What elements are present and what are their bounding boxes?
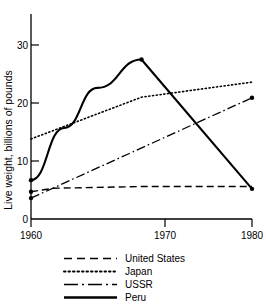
- y-tick-label-0: 0: [22, 214, 28, 225]
- legend-item-united-states: United States: [0, 252, 266, 265]
- x-tick-label-1980: 1980: [241, 230, 264, 241]
- legend-label-peru: Peru: [125, 291, 146, 304]
- series-group: [31, 60, 252, 199]
- legend-swatch-solid: [62, 291, 119, 304]
- data-point-marker: [250, 187, 254, 191]
- legend-swatch-dash-dot: [62, 278, 119, 291]
- series-line-japan: [31, 82, 252, 139]
- data-point-marker: [250, 96, 254, 100]
- data-point-marker: [139, 57, 143, 61]
- series-line-united-states: [31, 187, 252, 192]
- legend-container: United States Japan USSR Peru: [0, 252, 266, 304]
- y-tick-label-30: 30: [17, 40, 29, 51]
- legend-label-united-states: United States: [125, 252, 185, 265]
- data-point-marker: [29, 178, 33, 182]
- y-tick-label-10: 10: [17, 156, 29, 167]
- y-axis-label: Live weight, billions of pounds: [2, 70, 14, 210]
- legend-label-ussr: USSR: [125, 278, 153, 291]
- data-point-marker: [29, 190, 33, 194]
- x-tick-label-1960: 1960: [20, 230, 43, 241]
- legend-swatch-dashed: [62, 252, 119, 265]
- legend-swatch-dotted: [62, 265, 119, 278]
- data-point-marker: [29, 196, 33, 200]
- legend-item-ussr: USSR: [0, 278, 266, 291]
- y-tick-label-20: 20: [17, 98, 29, 109]
- series-line-peru: [31, 60, 252, 189]
- x-tick-label-1970: 1970: [154, 230, 177, 241]
- legend-item-japan: Japan: [0, 265, 266, 278]
- legend-label-japan: Japan: [125, 265, 152, 278]
- legend-item-peru: Peru: [0, 291, 266, 304]
- series-line-ussr: [31, 98, 252, 198]
